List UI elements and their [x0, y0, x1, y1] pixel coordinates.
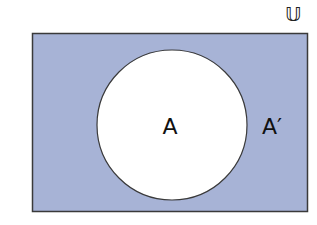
set-a-label: A	[162, 114, 177, 139]
complement-label: A′	[262, 114, 282, 139]
venn-diagram: A A′	[0, 0, 317, 225]
